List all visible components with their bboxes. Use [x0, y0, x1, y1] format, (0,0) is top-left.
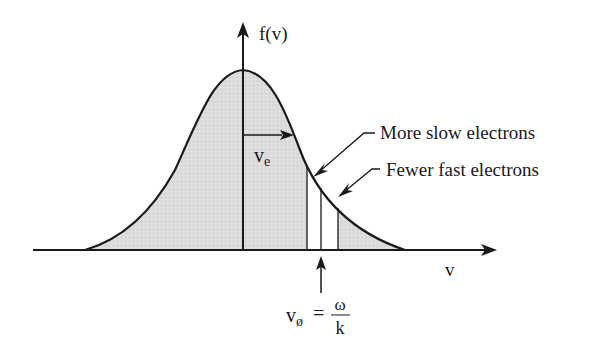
phase-velocity-denominator: k: [336, 318, 345, 338]
phase-velocity-numerator: ω: [334, 295, 345, 314]
annotation-more-slow-electrons: More slow electrons: [380, 122, 535, 143]
annotation-fewer-fast-electrons: Fewer fast electrons: [386, 159, 539, 180]
plateau-band: [307, 166, 338, 250]
fast-electrons-arrowhead: [338, 183, 353, 197]
x-axis-label: v: [445, 259, 455, 280]
slow-electrons-arrowhead: [313, 163, 328, 177]
fast-electrons-leader: [344, 169, 380, 192]
velocity-distribution-diagram: f(v) v ve More slow electrons Fewer fast…: [0, 0, 604, 347]
y-axis-label: f(v): [259, 23, 287, 45]
phase-velocity-label: vø: [286, 304, 303, 329]
slow-electrons-leader: [319, 133, 375, 172]
phase-velocity-equals: =: [313, 302, 324, 324]
